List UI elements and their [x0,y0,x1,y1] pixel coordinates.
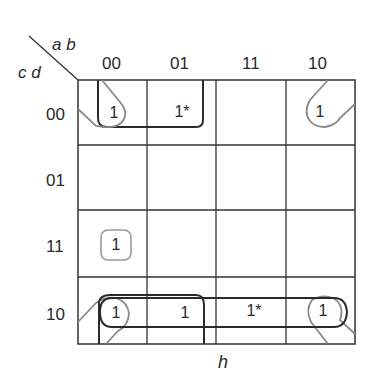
row-label-01: 01 [46,172,65,189]
group-corners-bottom-right [308,296,355,344]
cell-r11-c00: 1 [112,237,121,253]
col-label-00: 00 [102,55,121,72]
cell-r10-c11: 1* [246,303,261,319]
cell-r00-c01: 1* [174,104,189,120]
cell-r10-c10: 1 [319,303,328,319]
row-variable-label: c d [18,64,41,81]
col-variable-label: a b [52,36,76,53]
group-corners-bottom-left [78,298,129,344]
col-label-10: 10 [308,55,327,72]
col-label-01: 01 [170,55,189,72]
row-label-00: 00 [46,106,65,123]
row-label-10: 10 [46,306,65,323]
cell-r10-c01: 1 [181,305,190,321]
cell-r10-c00: 1 [112,305,121,321]
output-label: h [218,353,228,371]
row-label-11: 11 [46,238,64,255]
cell-r00-c10: 1 [316,104,325,120]
cell-r00-c00: 1 [110,105,119,121]
group-corners-top-right [307,80,356,127]
col-label-11: 11 [242,55,260,72]
